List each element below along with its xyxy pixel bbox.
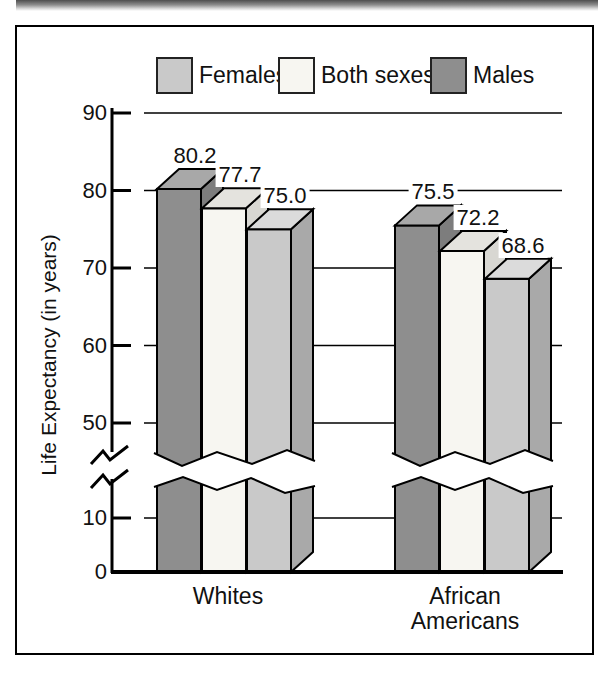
page-edge-shadow <box>16 0 598 11</box>
legend-item-both-sexes: Both sexes <box>278 57 435 94</box>
y-tick-90: 90 <box>59 100 107 126</box>
category-label-line: African <box>429 583 501 609</box>
males-swatch-icon <box>430 57 467 94</box>
category-label-line: Americans <box>411 608 520 634</box>
legend: Females Both sexes Males <box>0 57 611 94</box>
category-label-african-americans: African Americans <box>411 584 520 634</box>
y-tick-80: 80 <box>59 178 107 204</box>
bar-value-label: 68.6 <box>499 233 548 258</box>
legend-label-males: Males <box>473 57 534 94</box>
figure: Females Both sexes Males Life Expectancy… <box>0 0 611 674</box>
y-tick-70: 70 <box>59 255 107 281</box>
y-tick-60: 60 <box>59 333 107 359</box>
legend-label-females: Females <box>199 57 287 94</box>
legend-label-both-sexes: Both sexes <box>321 57 435 94</box>
females-swatch-icon <box>156 57 193 94</box>
category-label-whites: Whites <box>193 584 263 609</box>
bar-value-label: 77.7 <box>216 162 265 187</box>
category-label-line: Whites <box>193 583 263 609</box>
y-tick-0: 0 <box>59 559 107 585</box>
bar-value-label: 75.0 <box>261 183 310 208</box>
y-tick-50: 50 <box>59 410 107 436</box>
both-sexes-swatch-icon <box>278 57 315 94</box>
bar-value-label: 75.5 <box>409 179 458 204</box>
bar-value-label: 80.2 <box>171 143 220 168</box>
bar-value-label: 72.2 <box>454 205 503 230</box>
y-axis-title: Life Expectancy (in years) <box>37 234 61 476</box>
legend-item-males: Males <box>430 57 534 94</box>
y-tick-10: 10 <box>59 505 107 531</box>
legend-item-females: Females <box>156 57 287 94</box>
